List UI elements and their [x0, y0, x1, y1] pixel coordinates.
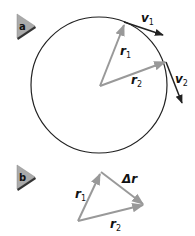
- label-v2: v2: [175, 72, 188, 88]
- label-r2-b: r2: [110, 217, 121, 233]
- label-v1: v1: [141, 11, 154, 27]
- label-delta-r: Δr: [121, 172, 138, 186]
- panel-b-label: b: [19, 172, 26, 183]
- circular-motion-diagram: a v1 v2 r1 r2 b r1 r2 Δr: [0, 0, 195, 236]
- panel-b-badge: b: [17, 165, 36, 191]
- panel-a-label: a: [19, 21, 26, 32]
- circular-path: [31, 17, 167, 153]
- label-r1-a: r1: [120, 44, 131, 60]
- label-r2-a: r2: [131, 73, 142, 89]
- panel-a-badge: a: [17, 14, 36, 40]
- label-r1-b: r1: [75, 187, 86, 203]
